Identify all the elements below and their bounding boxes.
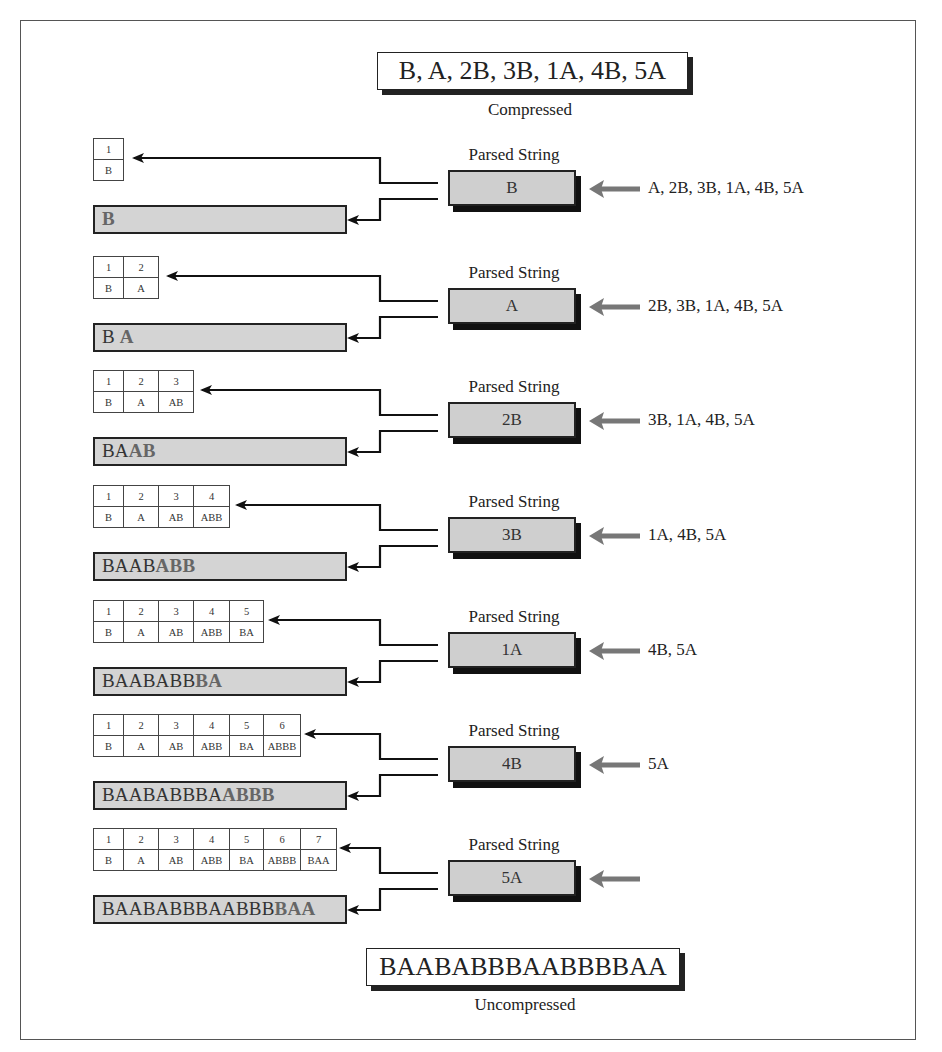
parsed-string-box: 3B xyxy=(448,517,576,553)
output-new-chars: BA xyxy=(195,670,222,691)
output-new-chars: A xyxy=(120,326,134,347)
dictionary-entry: ABB xyxy=(194,850,230,871)
dictionary-table: 123BAAB xyxy=(93,370,194,413)
dictionary-table: 1B xyxy=(93,138,124,181)
remaining-input: 2B, 3B, 1A, 4B, 5A xyxy=(648,296,783,316)
dictionary-entry: B xyxy=(94,278,124,299)
parsed-token: 3B xyxy=(502,525,522,545)
output-previous: BAABABBBAABBB xyxy=(102,898,275,919)
dictionary-index: 5 xyxy=(230,601,264,622)
remaining-input: 1A, 4B, 5A xyxy=(648,525,726,545)
compressed-text: B, A, 2B, 3B, 1A, 4B, 5A xyxy=(399,56,666,86)
dictionary-index: 1 xyxy=(94,257,124,278)
compressed-input-box: B, A, 2B, 3B, 1A, 4B, 5A xyxy=(377,52,688,90)
parsed-token: 1A xyxy=(502,640,523,660)
dictionary-index: 4 xyxy=(194,829,230,850)
uncompressed-text: BAABABBBAABBBBAA xyxy=(379,952,667,982)
dictionary-entry: BAA xyxy=(301,850,337,871)
parsed-string-box: 4B xyxy=(448,746,576,782)
remaining-input: 5A xyxy=(648,754,669,774)
output-previous: B xyxy=(102,326,120,347)
dictionary-index: 4 xyxy=(194,715,230,736)
dictionary-entry: B xyxy=(94,850,124,871)
uncompressed-output-box: BAABABBBAABBBBAA xyxy=(366,948,680,986)
dictionary-entry: ABB xyxy=(194,622,230,643)
parsed-token: A xyxy=(506,296,518,316)
dictionary-entry: AB xyxy=(159,622,194,643)
dictionary-index: 1 xyxy=(94,829,124,850)
dictionary-index: 1 xyxy=(94,371,124,392)
output-new-chars: BAA xyxy=(275,898,316,919)
output-buffer: BAAB xyxy=(93,437,347,466)
dictionary-index: 6 xyxy=(264,715,301,736)
dictionary-entry: B xyxy=(94,160,124,181)
dictionary-table: 1234567BAABABBBAABBBBAA xyxy=(93,828,337,871)
parsed-string-label: Parsed String xyxy=(440,721,588,741)
dictionary-entry: AB xyxy=(159,392,194,413)
dictionary-entry: AB xyxy=(159,507,194,528)
parsed-token: 2B xyxy=(502,410,522,430)
output-previous: BAABABBBA xyxy=(102,784,222,805)
dictionary-table: 123456BAABABBBAABBB xyxy=(93,714,301,757)
parsed-token: 5A xyxy=(502,868,523,888)
parsed-string-label: Parsed String xyxy=(440,377,588,397)
output-new-chars: ABBB xyxy=(222,784,275,805)
dictionary-index: 4 xyxy=(194,486,230,507)
output-buffer: BAABABB xyxy=(93,552,347,581)
dictionary-entry: AB xyxy=(159,850,194,871)
output-previous: BAABABB xyxy=(102,670,195,691)
dictionary-index: 1 xyxy=(94,601,124,622)
dictionary-index: 2 xyxy=(124,715,159,736)
output-buffer: BAABABBBAABBBBAA xyxy=(93,895,347,924)
dictionary-index: 2 xyxy=(124,829,159,850)
dictionary-index: 3 xyxy=(159,486,194,507)
parsed-string-label: Parsed String xyxy=(440,263,588,283)
output-buffer: B xyxy=(93,205,347,234)
remaining-input: 4B, 5A xyxy=(648,640,697,660)
remaining-input: A, 2B, 3B, 1A, 4B, 5A xyxy=(648,178,804,198)
parsed-token: 4B xyxy=(502,754,522,774)
dictionary-entry: ABBB xyxy=(264,736,301,757)
output-new-chars: AB xyxy=(129,440,156,461)
output-previous: BAAB xyxy=(102,555,156,576)
output-previous: BA xyxy=(102,440,129,461)
parsed-string-box: 2B xyxy=(448,402,576,438)
dictionary-index: 5 xyxy=(230,715,264,736)
parsed-string-box: B xyxy=(448,170,576,206)
output-buffer: B A xyxy=(93,323,347,352)
output-new-chars: ABB xyxy=(156,555,196,576)
dictionary-entry: A xyxy=(124,278,159,299)
dictionary-table: 12345BAABABBBA xyxy=(93,600,264,643)
dictionary-entry: ABB xyxy=(194,736,230,757)
uncompressed-caption: Uncompressed xyxy=(425,995,625,1015)
dictionary-index: 4 xyxy=(194,601,230,622)
dictionary-entry: ABB xyxy=(194,507,230,528)
dictionary-entry: A xyxy=(124,622,159,643)
dictionary-index: 2 xyxy=(124,601,159,622)
parsed-string-box: 1A xyxy=(448,632,576,668)
output-buffer: BAABABBBAABBB xyxy=(93,781,347,810)
dictionary-entry: BA xyxy=(230,736,264,757)
output-buffer: BAABABBBA xyxy=(93,667,347,696)
dictionary-entry: A xyxy=(124,850,159,871)
parsed-token: B xyxy=(506,178,517,198)
parsed-string-label: Parsed String xyxy=(440,835,588,855)
dictionary-entry: ABBB xyxy=(264,850,301,871)
dictionary-entry: B xyxy=(94,736,124,757)
dictionary-table: 12BA xyxy=(93,256,159,299)
dictionary-entry: BA xyxy=(230,850,264,871)
dictionary-index: 1 xyxy=(94,486,124,507)
parsed-string-label: Parsed String xyxy=(440,145,588,165)
dictionary-index: 3 xyxy=(159,601,194,622)
parsed-string-box: 5A xyxy=(448,860,576,896)
dictionary-index: 1 xyxy=(94,715,124,736)
dictionary-index: 3 xyxy=(159,715,194,736)
dictionary-index: 2 xyxy=(124,486,159,507)
parsed-string-box: A xyxy=(448,288,576,324)
dictionary-entry: B xyxy=(94,392,124,413)
dictionary-entry: BA xyxy=(230,622,264,643)
output-new-chars: B xyxy=(102,208,115,229)
compressed-caption: Compressed xyxy=(430,100,630,120)
dictionary-index: 1 xyxy=(94,139,124,160)
dictionary-index: 2 xyxy=(124,257,159,278)
